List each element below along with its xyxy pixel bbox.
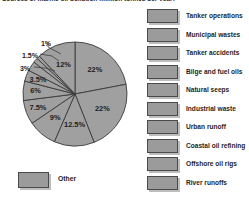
legend-item-other[interactable]: Other (16, 170, 136, 192)
legend-item-urban-runoff[interactable]: Urban runoff (145, 119, 249, 138)
legend-item-river-runoffs[interactable]: River runoffs (145, 175, 249, 194)
chart-title: Sources of marine oil pollution (million… (2, 0, 232, 1)
legend-swatch-icon (147, 139, 178, 153)
legend-item-label: Industrial waste (186, 103, 236, 114)
legend-item-bilge-and-fuel-oils[interactable]: Bilge and fuel oils (145, 64, 249, 83)
legend-swatch-icon (147, 176, 178, 190)
pie-slice-label: 9% (50, 113, 61, 122)
legend-item-tanker-accidents[interactable]: Tanker accidents (145, 45, 249, 64)
legend-swatch-icon (147, 120, 178, 134)
pie-slice-label: 12.5% (64, 120, 85, 129)
legend-item-municipal-wastes[interactable]: Municipal wastes (145, 27, 249, 46)
legend-swatch-icon (147, 46, 178, 60)
legend-item-tanker-operations[interactable]: Tanker operations (145, 8, 249, 27)
legend-item-offshore-oil-rigs[interactable]: Offshore oil rigs (145, 156, 249, 175)
pie-slice-label: 6% (30, 86, 41, 95)
pie-chart-figure: Sources of marine oil pollution (million… (0, 0, 249, 202)
pie-slice-label: 22% (87, 65, 102, 74)
pie-slice-label: 22% (95, 104, 110, 113)
pie-svg: 22%22%12.5%9%7.5%6%3.5%3%1.5%1%12% (0, 14, 145, 174)
legend-swatch-icon (147, 65, 178, 79)
legend-swatch-icon (147, 157, 178, 171)
legend-item-label: Coastal oil refining (186, 140, 245, 151)
pie-slice-label: 3.5% (30, 75, 47, 84)
legend-item-label: Other (58, 175, 76, 182)
legend-swatch-icon (147, 9, 178, 23)
legend-swatch-icon (147, 83, 178, 97)
pie-plot-area: 22%22%12.5%9%7.5%6%3.5%3%1.5%1%12% (0, 14, 145, 174)
legend-item-label: River runoffs (186, 177, 227, 188)
legend-item-label: Tanker operations (186, 10, 243, 21)
legend-item-label: Bilge and fuel oils (186, 66, 242, 77)
pie-slice-label: 3% (20, 65, 31, 72)
pie-slice-label: 7.5% (30, 103, 47, 112)
legend-item-natural-seeps[interactable]: Natural seeps (145, 82, 249, 101)
legend-swatch-icon (147, 102, 178, 116)
legend-swatch-icon (18, 172, 49, 188)
pie-slice-label: 1% (41, 40, 52, 47)
legend-swatch-icon (147, 28, 178, 42)
legend: Tanker operations Municipal wastes Tanke… (145, 8, 249, 193)
legend-item-label: Offshore oil rigs (186, 158, 237, 169)
legend-item-label: Natural seeps (186, 84, 229, 95)
legend-item-label: Municipal wastes (186, 29, 240, 40)
pie-slice-label: 12% (56, 60, 71, 69)
pie-slice-label: 1.5% (22, 52, 39, 59)
legend-item-label: Tanker accidents (186, 47, 239, 58)
legend-item-coastal-oil-refining[interactable]: Coastal oil refining (145, 138, 249, 157)
legend-item-industrial-waste[interactable]: Industrial waste (145, 101, 249, 120)
legend-item-label: Urban runoff (186, 121, 226, 132)
